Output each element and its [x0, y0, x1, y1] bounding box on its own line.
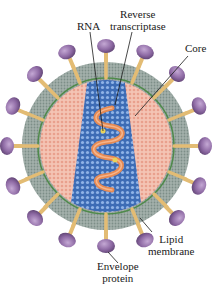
reverse-transcriptase-line2: transcriptase [110, 20, 166, 32]
reverse-transcriptase-enzyme [113, 158, 118, 163]
core-label-text: Core [185, 42, 206, 54]
envelope-protein-line1: Envelope [97, 260, 139, 272]
envelope-protein-label: Envelope protein [97, 260, 139, 284]
reverse-transcriptase-label: Reverse transcriptase [110, 8, 166, 32]
reverse-transcriptase-line1: Reverse [110, 8, 166, 20]
rna-label: RNA [77, 20, 100, 32]
lipid-membrane-line2: membrane [148, 245, 194, 257]
envelope-protein-line2: protein [97, 272, 139, 284]
lipid-membrane-line1: Lipid [148, 233, 194, 245]
hiv-virion-diagram: RNA Reverse transcriptase Core Lipid mem… [0, 0, 212, 285]
core-label: Core [185, 42, 206, 54]
lipid-membrane-label: Lipid membrane [148, 233, 194, 257]
rna-label-text: RNA [77, 20, 100, 32]
